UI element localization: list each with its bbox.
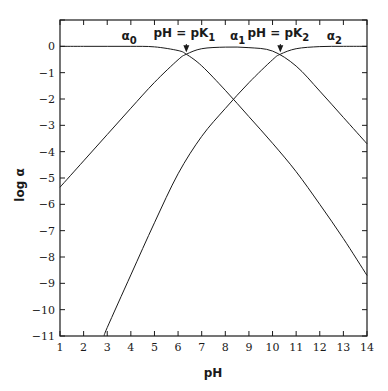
x-tick-label: 13 (336, 341, 350, 354)
arrow-down-icon (277, 45, 283, 52)
x-tick-label: 4 (127, 341, 134, 354)
y-tick-label: −2 (39, 93, 55, 106)
x-tick-label: 11 (289, 341, 303, 354)
x-axis-title: pH (204, 366, 223, 380)
x-tick-label: 9 (245, 341, 252, 354)
y-axis-title: log α (13, 168, 27, 201)
y-tick-label: −6 (39, 198, 55, 211)
y-tick-label: −1 (39, 67, 55, 80)
arrow-down-icon (183, 45, 189, 52)
x-tick-label: 2 (80, 341, 87, 354)
species-curves (60, 46, 367, 336)
curve-label: α1 (230, 29, 245, 46)
y-tick-label: −7 (39, 225, 55, 238)
x-tick-label: 5 (151, 341, 158, 354)
x-tick-label: 14 (360, 341, 374, 354)
x-tick-label: 7 (198, 341, 205, 354)
speciation-chart: 12345678910111213140−1−2−3−4−5−6−7−8−9−1… (0, 0, 388, 391)
curve-1 (60, 47, 367, 187)
y-tick-label: −11 (32, 330, 55, 343)
curve-2 (104, 46, 367, 336)
curve-0 (60, 46, 367, 275)
y-tick-label: −9 (39, 277, 55, 290)
y-tick-label: −10 (32, 304, 55, 317)
curve-label: α2 (327, 29, 342, 46)
x-tick-label: 10 (266, 341, 280, 354)
plot-frame (60, 20, 367, 336)
y-tick-label: 0 (48, 40, 55, 53)
y-tick-label: −3 (39, 119, 55, 132)
pk-label: pH = pK2 (247, 26, 309, 43)
x-tick-label: 6 (175, 341, 182, 354)
axis-ticks: 12345678910111213140−1−2−3−4−5−6−7−8−9−1… (32, 20, 374, 354)
pk-label: pH = pK1 (153, 26, 215, 43)
curve-label: α0 (121, 29, 136, 46)
x-tick-label: 8 (222, 341, 229, 354)
x-tick-label: 3 (104, 341, 111, 354)
x-tick-label: 1 (57, 341, 64, 354)
y-tick-label: −5 (39, 172, 55, 185)
y-tick-label: −4 (39, 146, 55, 159)
x-tick-label: 12 (313, 341, 327, 354)
y-tick-label: −8 (39, 251, 55, 264)
